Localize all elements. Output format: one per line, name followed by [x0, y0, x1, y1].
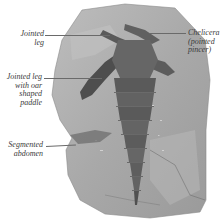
leader-chelicera	[150, 33, 186, 34]
label-chelicera-line3: pincer)	[188, 46, 220, 55]
label-paddle-line4: paddle	[7, 99, 42, 108]
label-jointed-leg-paddle: Jointed leg with oar shaped paddle	[7, 73, 42, 107]
fossil-diagram: Jointed leg Jointed leg with oar shaped …	[0, 0, 223, 220]
leader-jointed-leg-paddle	[44, 78, 102, 79]
prosoma	[112, 40, 158, 78]
label-jointed-leg: Jointed leg	[20, 30, 44, 47]
label-segmented-abdomen: Segmented abdomen	[8, 141, 43, 158]
label-chelicera: Chelicera (pointed pincer)	[188, 29, 220, 55]
label-abdomen-line2: abdomen	[8, 150, 43, 159]
leader-jointed-leg	[45, 35, 110, 36]
label-jointed-leg-line2: leg	[20, 39, 44, 48]
